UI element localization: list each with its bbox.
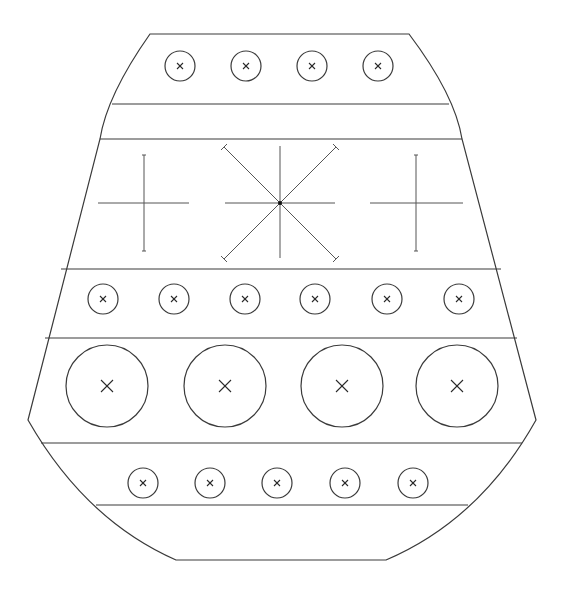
egg-outline — [28, 34, 536, 560]
circle-x-icon — [165, 51, 195, 81]
circle-x-icon — [398, 468, 428, 498]
circle-x-icon — [231, 51, 261, 81]
circle-x-icon — [372, 284, 402, 314]
egg-drawing — [0, 0, 564, 594]
bottom-row — [128, 468, 428, 498]
left-cross-icon — [98, 155, 189, 251]
circle-x-icon — [301, 345, 383, 427]
circle-x-icon — [184, 345, 266, 427]
circle-x-icon — [330, 468, 360, 498]
circle-rows — [66, 51, 498, 498]
circle-x-icon — [416, 345, 498, 427]
circle-x-icon — [159, 284, 189, 314]
large-row — [66, 345, 498, 427]
circle-x-icon — [88, 284, 118, 314]
right-cross-icon — [370, 155, 463, 251]
star-mark — [221, 144, 339, 262]
circle-x-icon — [300, 284, 330, 314]
circle-x-icon — [195, 468, 225, 498]
circle-x-icon — [444, 284, 474, 314]
middle-small-row — [88, 284, 474, 314]
drawing-svg — [0, 0, 564, 594]
top-row — [165, 51, 393, 81]
circle-x-icon — [66, 345, 148, 427]
band-lines — [41, 104, 522, 505]
circle-x-icon — [363, 51, 393, 81]
circle-x-icon — [128, 468, 158, 498]
circle-x-icon — [262, 468, 292, 498]
circle-x-icon — [297, 51, 327, 81]
circle-x-icon — [230, 284, 260, 314]
